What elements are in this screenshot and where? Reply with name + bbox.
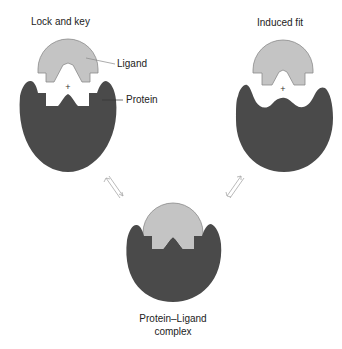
complex-ligand-shape	[143, 203, 203, 240]
right-equilibrium-arrow	[226, 176, 244, 198]
induced-fit-plus: +	[280, 84, 285, 94]
lock-and-key-plus: +	[65, 82, 70, 92]
protein-label: Protein	[126, 94, 158, 106]
induced-fit-title: Induced fit	[257, 17, 303, 29]
left-equilibrium-arrow	[104, 176, 123, 198]
diagram-canvas: + +	[0, 0, 342, 349]
complex-label-line1: Protein–Ligand	[120, 313, 226, 325]
lock-and-key-title: Lock and key	[31, 16, 90, 28]
complex-label-line2: complex	[120, 326, 226, 338]
induced-fit-ligand-shape	[253, 40, 313, 85]
lock-and-key-protein-shape	[20, 81, 117, 172]
induced-fit-protein-shape	[236, 85, 333, 172]
induced-fit-panel: +	[236, 40, 333, 172]
lock-and-key-ligand-shape	[38, 39, 98, 82]
ligand-label: Ligand	[117, 58, 147, 70]
lock-and-key-panel: +	[20, 39, 123, 172]
complex-panel	[126, 203, 221, 302]
